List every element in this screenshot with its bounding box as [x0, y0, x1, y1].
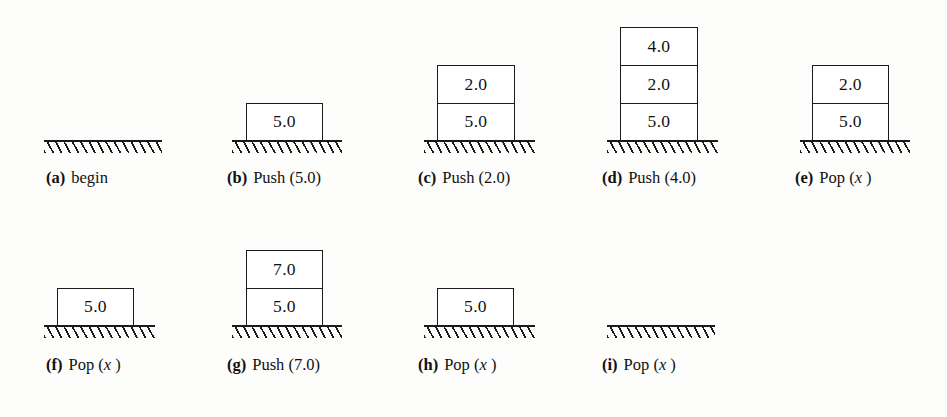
- ground-hatch-i: [607, 325, 715, 338]
- ground-hatch-lines-i: [607, 327, 715, 338]
- ground-rule-c: [424, 140, 535, 142]
- stack-column-e: 2.05.0: [812, 65, 889, 141]
- stack-cell: 5.0: [437, 288, 514, 326]
- caption-operation-i: Pop (x ): [624, 355, 676, 374]
- stack-panel-b: 5.0(b)Push (5.0): [0, 0, 947, 417]
- caption-operation-c: Push (2.0): [442, 168, 510, 187]
- caption-operation-h: Pop (x ): [444, 355, 496, 374]
- stack-panel-d: 4.02.05.0(d)Push (4.0): [0, 0, 947, 417]
- panel-caption-c: (c)Push (2.0): [418, 170, 510, 187]
- ground-hatch-a: [44, 140, 162, 153]
- ground-hatch-d: [607, 140, 718, 153]
- caption-tag-h: (h): [418, 355, 438, 374]
- stack-cell: 7.0: [246, 250, 323, 288]
- ground-rule-g: [232, 325, 342, 327]
- caption-operation-d: Push (4.0): [628, 168, 696, 187]
- caption-tag-i: (i): [602, 355, 618, 374]
- panel-caption-g: (g)Push (7.0): [227, 357, 320, 374]
- ground-rule-e: [800, 140, 910, 142]
- stack-cell: 2.0: [812, 65, 889, 103]
- caption-operation-e: Pop (x ): [819, 168, 871, 187]
- stack-column-h: 5.0: [437, 288, 514, 326]
- stack-cell: 4.0: [620, 27, 698, 65]
- caption-tag-f: (f): [46, 355, 62, 374]
- stack-cell: 5.0: [57, 288, 134, 326]
- caption-tag-d: (d): [602, 168, 622, 187]
- panel-caption-i: (i)Pop (x ): [602, 357, 676, 374]
- caption-operation-g: Push (7.0): [252, 355, 320, 374]
- caption-variable-i: x: [659, 355, 666, 374]
- panel-caption-f: (f)Pop (x ): [46, 357, 121, 374]
- caption-operation-b: Push (5.0): [253, 168, 321, 187]
- ground-hatch-f: [44, 325, 155, 338]
- ground-rule-i: [607, 325, 715, 327]
- stack-cell: 5.0: [620, 103, 698, 141]
- ground-hatch-lines-f: [44, 327, 155, 338]
- ground-hatch-lines-b: [232, 142, 342, 153]
- ground-hatch-lines-e: [800, 142, 910, 153]
- panel-caption-e: (e)Pop (x ): [795, 170, 872, 187]
- ground-hatch-e: [800, 140, 910, 153]
- caption-operation-f: Pop (x ): [68, 355, 120, 374]
- stack-column-g: 7.05.0: [246, 250, 323, 326]
- ground-hatch-lines-c: [424, 142, 535, 153]
- stack-column-d: 4.02.05.0: [620, 27, 698, 141]
- stack-column-b: 5.0: [246, 103, 323, 141]
- ground-rule-d: [607, 140, 718, 142]
- caption-variable-e: x: [855, 168, 862, 187]
- panel-caption-d: (d)Push (4.0): [602, 170, 696, 187]
- caption-operation-a: begin: [71, 168, 108, 187]
- stack-column-f: 5.0: [57, 288, 134, 326]
- caption-tag-e: (e): [795, 168, 813, 187]
- ground-hatch-lines-d: [607, 142, 718, 153]
- panel-caption-b: (b)Push (5.0): [227, 170, 321, 187]
- ground-rule-h: [424, 325, 535, 327]
- stack-cell: 5.0: [437, 103, 515, 141]
- ground-hatch-lines-h: [424, 327, 535, 338]
- panel-caption-h: (h)Pop (x ): [418, 357, 496, 374]
- stack-panel-c: 2.05.0(c)Push (2.0): [0, 0, 947, 417]
- caption-tag-b: (b): [227, 168, 247, 187]
- stack-cell: 5.0: [246, 103, 323, 141]
- ground-hatch-g: [232, 325, 342, 338]
- ground-rule-f: [44, 325, 155, 327]
- stack-panel-i: (i)Pop (x ): [0, 0, 947, 417]
- ground-rule-a: [44, 140, 162, 142]
- caption-variable-h: x: [479, 355, 486, 374]
- ground-hatch-c: [424, 140, 535, 153]
- stack-column-c: 2.05.0: [437, 65, 515, 141]
- stack-panel-a: (a)begin: [0, 0, 947, 417]
- caption-tag-g: (g): [227, 355, 246, 374]
- stack-cell: 2.0: [437, 65, 515, 103]
- ground-hatch-b: [232, 140, 342, 153]
- ground-hatch-h: [424, 325, 535, 338]
- stack-panel-e: 2.05.0(e)Pop (x ): [0, 0, 947, 417]
- stack-cell: 5.0: [812, 103, 889, 141]
- stack-panel-g: 7.05.0(g)Push (7.0): [0, 0, 947, 417]
- stack-panel-h: 5.0(h)Pop (x ): [0, 0, 947, 417]
- ground-rule-b: [232, 140, 342, 142]
- stack-panel-f: 5.0(f)Pop (x ): [0, 0, 947, 417]
- panel-caption-a: (a)begin: [46, 170, 108, 187]
- stack-operations-figure: (a)begin5.0(b)Push (5.0)2.05.0(c)Push (2…: [0, 0, 947, 417]
- caption-tag-c: (c): [418, 168, 436, 187]
- caption-tag-a: (a): [46, 168, 65, 187]
- ground-hatch-lines-g: [232, 327, 342, 338]
- caption-variable-f: x: [104, 355, 111, 374]
- ground-hatch-lines-a: [44, 142, 162, 153]
- stack-cell: 2.0: [620, 65, 698, 103]
- stack-cell: 5.0: [246, 288, 323, 326]
